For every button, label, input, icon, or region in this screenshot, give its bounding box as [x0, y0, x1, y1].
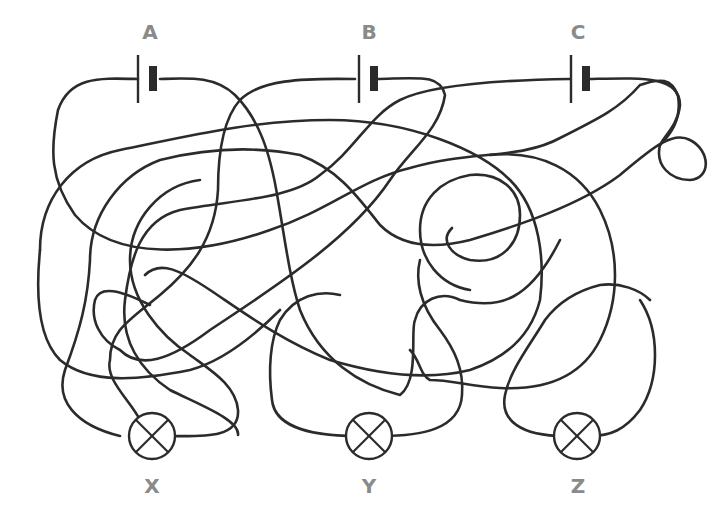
battery-c [571, 55, 590, 103]
battery-label-c: C [571, 22, 586, 42]
battery-b [359, 55, 378, 103]
lamp-x [129, 413, 175, 459]
lamp-label-y: Y [362, 476, 376, 496]
wire-y-right [381, 260, 462, 436]
wire-puzzle-diagram: A B C X Y Z [0, 0, 713, 506]
battery-label-b: B [361, 22, 376, 42]
battery-label-a: A [142, 22, 157, 42]
lamp-label-z: Z [571, 476, 586, 496]
wire-a-left [53, 79, 679, 250]
lamp-label-x: X [144, 476, 159, 496]
lamp-z [554, 413, 600, 459]
wire-c-left [124, 79, 570, 435]
wire-arc-4 [590, 300, 655, 436]
circuit-drawing [0, 0, 713, 506]
wire-b-right [94, 78, 445, 360]
wire-a-right [160, 78, 560, 395]
wires [38, 78, 706, 436]
wire-arc-3 [420, 175, 520, 290]
battery-a [138, 55, 157, 103]
lamp-y [346, 413, 392, 459]
